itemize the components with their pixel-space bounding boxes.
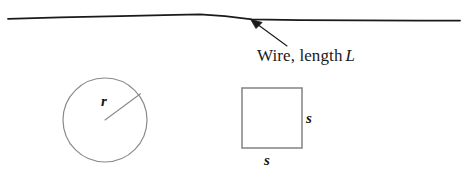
square-side-label-right: s xyxy=(306,111,312,126)
wire-callout-label: Wire, lengthL xyxy=(257,47,355,64)
figure-canvas xyxy=(0,0,465,176)
wire-label-text: Wire, length xyxy=(257,46,343,65)
wire-circle-square-figure: Wire, lengthL r s s xyxy=(0,0,465,176)
wire-length-symbol: L xyxy=(343,46,356,65)
circle-radius-label: r xyxy=(101,94,107,109)
square-shape xyxy=(242,88,302,148)
circle-radius-line xyxy=(105,94,141,120)
square-side-label-bottom: s xyxy=(264,153,270,168)
wire-line xyxy=(8,14,460,20)
callout-arrow-shaft xyxy=(257,24,287,46)
